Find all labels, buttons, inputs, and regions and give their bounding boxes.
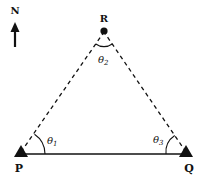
angle-label-theta3: θ3 [153, 134, 164, 147]
point-p-marker-icon [14, 145, 28, 157]
north-compass: N [10, 5, 19, 47]
point-r-marker-icon [100, 27, 107, 34]
edge-p-r [21, 32, 104, 152]
angle-arc-theta2 [96, 44, 112, 47]
point-r-label: R [100, 13, 109, 24]
point-q-label: Q [184, 162, 194, 175]
edge-q-r [104, 32, 186, 152]
angle-label-theta2: θ2 [98, 54, 109, 67]
angle-arc-theta3 [166, 136, 175, 155]
north-arrow-icon [11, 22, 20, 32]
diagram-canvas: N P Q R θ1 θ2 θ3 [0, 0, 206, 179]
triangulation-diagram: N P Q R θ1 θ2 θ3 [0, 0, 206, 179]
point-q-marker-icon [179, 145, 193, 157]
point-p-label: P [15, 162, 23, 175]
angle-arc-theta1 [35, 134, 46, 154]
angle-label-theta1: θ1 [47, 135, 58, 148]
north-label: N [10, 5, 19, 16]
